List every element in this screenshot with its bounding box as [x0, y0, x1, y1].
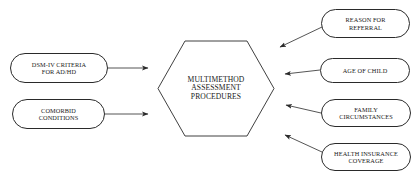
node-family-circumstances[interactable]: FAMILY CIRCUMSTANCES [321, 99, 411, 127]
family-line-2: CIRCUMSTANCES [339, 113, 393, 120]
node-label: REASON FOR REFERRAL [344, 16, 386, 30]
dsm-line-1: DSM-IV CRITERIA [32, 61, 86, 68]
node-label: HEALTH INSURANCE COVERAGE [333, 150, 399, 164]
referral-line-1: REASON FOR [345, 16, 385, 23]
node-label: FAMILY CIRCUMSTANCES [338, 106, 394, 120]
node-dsm-iv-criteria[interactable]: DSM-IV CRITERIA FOR AD/HD [10, 53, 108, 83]
diagram-canvas: MULTIMETHOD ASSESSMENT PROCEDURES DSM-IV… [0, 0, 420, 181]
node-label: DSM-IV CRITERIA FOR AD/HD [31, 61, 87, 75]
referral-line-2: REFERRAL [345, 24, 385, 31]
family-line-1: FAMILY [339, 106, 393, 113]
node-label: COMORBID CONDITIONS [38, 107, 79, 121]
node-age-of-child[interactable]: AGE OF CHILD [320, 58, 410, 83]
node-comorbid-conditions[interactable]: COMORBID CONDITIONS [12, 99, 105, 129]
node-label: AGE OF CHILD [342, 67, 389, 74]
comorbid-line-1: COMORBID [39, 107, 78, 114]
arrow-referral-to-center [280, 27, 322, 47]
arrow-insurance-to-center [285, 135, 322, 152]
arrow-age-to-center [285, 70, 320, 74]
node-multimethod-assessment-procedures[interactable]: MULTIMETHOD ASSESSMENT PROCEDURES [157, 40, 275, 137]
insurance-line-2: COVERAGE [334, 157, 398, 164]
center-line-3: PROCEDURES [188, 93, 245, 102]
node-health-insurance-coverage[interactable]: HEALTH INSURANCE COVERAGE [321, 143, 411, 171]
node-label: MULTIMETHOD ASSESSMENT PROCEDURES [188, 76, 245, 102]
age-line-1: AGE OF CHILD [343, 67, 388, 74]
comorbid-line-2: CONDITIONS [39, 114, 78, 121]
insurance-line-1: HEALTH INSURANCE [334, 150, 398, 157]
arrow-family-to-center [286, 105, 321, 113]
node-reason-for-referral[interactable]: REASON FOR REFERRAL [321, 9, 410, 38]
dsm-line-2: FOR AD/HD [32, 68, 86, 75]
